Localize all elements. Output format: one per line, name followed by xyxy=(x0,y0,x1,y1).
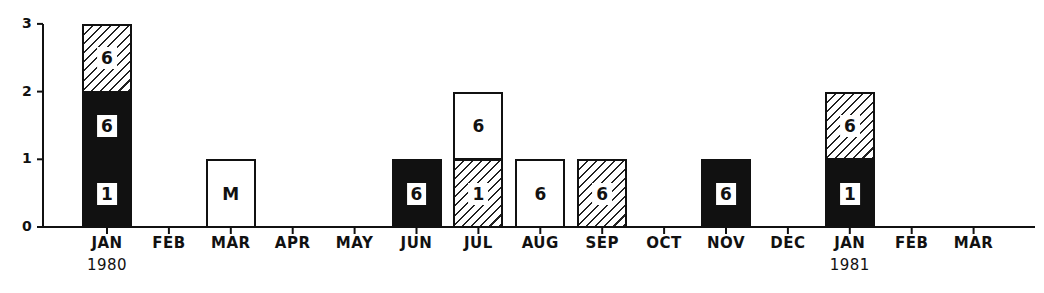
bar-segment-solid: 1 xyxy=(825,159,875,228)
y-tick-label: 0 xyxy=(22,218,42,234)
bar-segment-label: 6 xyxy=(97,115,117,137)
bar-segment-hatched: 6 xyxy=(82,24,132,93)
bar-segment-label: 1 xyxy=(97,183,117,205)
x-tick-year-label: 1980 xyxy=(77,256,137,274)
y-tick-label: 2 xyxy=(22,83,42,99)
y-tick-label: 3 xyxy=(22,15,42,31)
bar-segment-label: 6 xyxy=(97,47,117,69)
x-tick-label: AUG xyxy=(510,234,570,252)
x-tick-label: DEC xyxy=(758,234,818,252)
x-tick-label: JUL xyxy=(448,234,508,252)
x-tick-label: OCT xyxy=(634,234,694,252)
bar-segment-label: 1 xyxy=(840,183,860,205)
bar-segment-solid: 1 xyxy=(82,159,132,228)
bar-segment-open: M xyxy=(206,159,256,228)
bar-segment-label: 6 xyxy=(716,183,736,205)
x-tick-label: SEP xyxy=(572,234,632,252)
bar-segment-solid: 6 xyxy=(392,159,442,228)
x-tick-label: MAR xyxy=(201,234,261,252)
bar-segment-label: 6 xyxy=(592,183,612,205)
bar-segment-open: 6 xyxy=(453,92,503,161)
x-tick-label: FEB xyxy=(882,234,942,252)
x-tick-label: NOV xyxy=(696,234,756,252)
bar-segment-label: M xyxy=(218,183,243,205)
bar-segment-label: 6 xyxy=(468,115,488,137)
x-tick-label: MAR xyxy=(944,234,1004,252)
stacked-bar-chart: 0123 JAN1980FEBMARAPRMAYJUNJULAUGSEPOCTN… xyxy=(0,0,1044,293)
x-tick-label: JAN xyxy=(77,234,137,252)
y-tick-label: 1 xyxy=(22,150,42,166)
bar-segment-label: 1 xyxy=(468,183,488,205)
bar-segment-label: 6 xyxy=(840,115,860,137)
bar-segment-solid: 6 xyxy=(82,92,132,161)
x-tick-label: JAN xyxy=(820,234,880,252)
bar-segment-hatched: 6 xyxy=(825,92,875,161)
x-tick-label: APR xyxy=(263,234,323,252)
x-tick-label: JUN xyxy=(387,234,447,252)
x-tick-year-label: 1981 xyxy=(820,256,880,274)
bar-segment-label: 6 xyxy=(530,183,550,205)
bar-segment-solid: 6 xyxy=(701,159,751,228)
x-tick-label: MAY xyxy=(325,234,385,252)
bar-segment-hatched: 6 xyxy=(577,159,627,228)
x-tick-label: FEB xyxy=(139,234,199,252)
bar-segment-label: 6 xyxy=(407,183,427,205)
bar-segment-open: 6 xyxy=(515,159,565,228)
bar-segment-hatched: 1 xyxy=(453,159,503,228)
